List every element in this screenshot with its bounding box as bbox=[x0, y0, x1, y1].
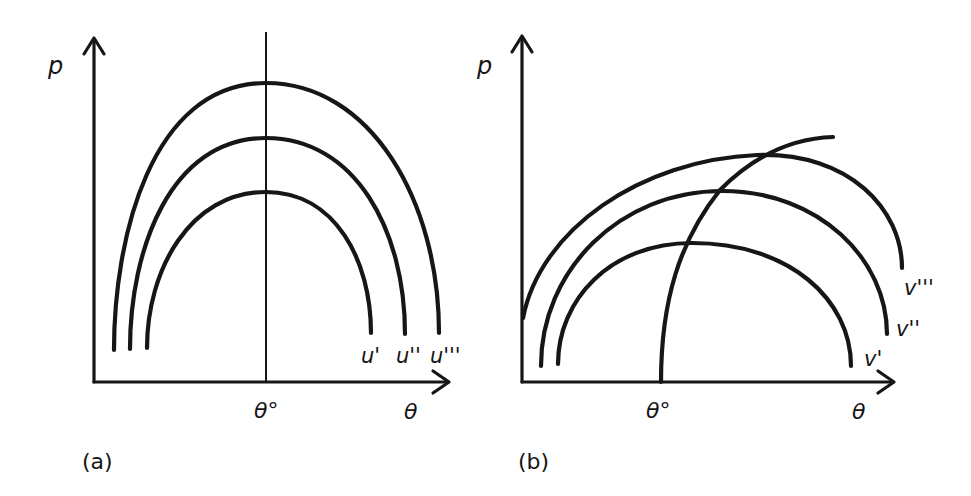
panel-a-curve-label-u-triple-prime: u''' bbox=[430, 344, 461, 368]
panel-a-caption: (a) bbox=[82, 449, 113, 474]
panel-b-theta0-label: θ° bbox=[646, 398, 670, 423]
panel-a-curve-label-u-double-prime: u'' bbox=[396, 344, 421, 368]
panel-a-curve-u-double-prime bbox=[130, 138, 405, 349]
panel-a-theta0-label: θ° bbox=[254, 398, 278, 423]
panel-a-curve-u-triple-prime bbox=[114, 83, 439, 350]
panel-a-curve-u-prime bbox=[147, 192, 371, 348]
panel-a-curve-label-u-prime: u' bbox=[361, 344, 380, 368]
panel-b-curve-label-v-double-prime: v'' bbox=[896, 317, 920, 341]
figure: p θ° θ u' u'' u''' (a) p θ° θ v' v'' v''… bbox=[0, 0, 971, 496]
panel-b-curve-v-prime bbox=[558, 243, 851, 366]
panel-b-locus-curve bbox=[661, 137, 833, 382]
panel-b: p θ° θ v' v'' v''' (b) bbox=[476, 36, 934, 474]
panel-b-y-axis-label: p bbox=[476, 52, 492, 80]
panel-a-x-axis-label: θ bbox=[404, 399, 418, 424]
panel-b-caption: (b) bbox=[518, 449, 549, 474]
panel-a-y-axis-label: p bbox=[47, 52, 63, 80]
panel-b-curve-label-v-prime: v' bbox=[864, 347, 882, 371]
panel-b-x-axis-label: θ bbox=[852, 399, 866, 424]
panel-a: p θ° θ u' u'' u''' (a) bbox=[47, 32, 461, 474]
panel-b-curve-label-v-triple-prime: v''' bbox=[904, 276, 934, 300]
